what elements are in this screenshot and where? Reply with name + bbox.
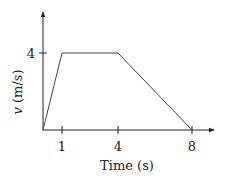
- y-axis-label: v (m/s): [10, 69, 25, 114]
- x-tick-label-4: 4: [114, 139, 122, 154]
- y-axis-label-units: (m/s): [10, 69, 25, 103]
- x-axis-label: Time (s): [100, 158, 154, 173]
- x-tick-label-8: 8: [188, 139, 196, 154]
- velocity-time-chart: 1 4 8 4 Time (s) v (m/s): [0, 0, 226, 183]
- velocity-line: [43, 53, 192, 130]
- x-tick-label-1: 1: [58, 139, 66, 154]
- y-tick-label-4: 4: [27, 46, 35, 61]
